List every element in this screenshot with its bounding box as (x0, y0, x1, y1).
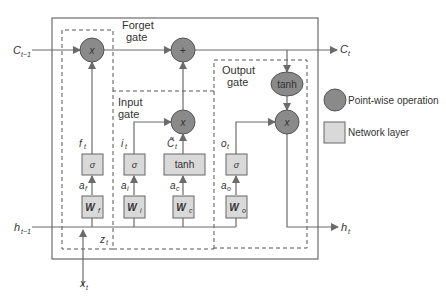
svg-text:h: h (341, 221, 347, 233)
svg-text:i: i (121, 138, 124, 149)
svg-text:t: t (227, 143, 230, 150)
h-prev-label: ht−1 (14, 221, 31, 235)
it-label: it (121, 138, 128, 150)
input-gate-label-2: gate (118, 108, 139, 120)
ctilde-label: C̃t (167, 137, 178, 150)
svg-text:C: C (13, 44, 21, 56)
it-line (134, 122, 171, 154)
output-gate-label-2: gate (227, 76, 248, 88)
tanh-candidate-layer: tanh (164, 154, 205, 175)
h-out-line (287, 134, 338, 227)
forget-gate-label: Forget (122, 19, 154, 31)
sigma-output-layer: σ (226, 154, 247, 175)
svg-text:t: t (125, 143, 128, 150)
output-multiply-op: x (275, 110, 299, 134)
svg-text:h: h (14, 221, 20, 233)
ot-label: ot (221, 138, 230, 150)
ft-label: ft (79, 138, 87, 150)
svg-text:x: x (180, 117, 187, 128)
svg-text:x: x (79, 277, 86, 289)
svg-text:tanh: tanh (277, 79, 296, 90)
forget-multiply-op: x (80, 38, 104, 62)
svg-text:z: z (99, 234, 105, 245)
svg-text:+: + (180, 45, 186, 56)
input-multiply-op: x (171, 110, 195, 134)
svg-text:W: W (229, 202, 240, 213)
ht-label: ht (341, 221, 351, 235)
svg-text:t: t (86, 284, 89, 291)
svg-text:x: x (89, 45, 96, 56)
svg-text:tanh: tanh (175, 159, 194, 170)
svg-text:i: i (127, 185, 129, 192)
svg-text:Point-wise operation: Point-wise operation (348, 95, 439, 106)
svg-text:W: W (85, 202, 96, 213)
sigma-forget-layer: σ (82, 154, 103, 175)
zt-label: zt (99, 234, 109, 246)
svg-text:c: c (189, 207, 193, 214)
ot-line (236, 122, 275, 154)
svg-text:o: o (242, 207, 246, 214)
svg-text:C: C (340, 43, 348, 55)
svg-text:f: f (79, 138, 83, 149)
svg-text:c: c (176, 185, 180, 192)
xt-label: xt (79, 277, 89, 291)
c-prev-label: Ct−1 (13, 44, 31, 58)
svg-text:W: W (127, 202, 138, 213)
output-tanh-op: tanh (271, 72, 303, 96)
w-forget-layer: W f (82, 196, 103, 218)
svg-text:C̃: C̃ (167, 137, 175, 149)
svg-text:σ: σ (234, 160, 240, 170)
input-gate-label: Input (118, 96, 142, 108)
svg-text:t: t (84, 143, 87, 150)
svg-text:t: t (106, 239, 109, 246)
af-label: af (79, 180, 88, 192)
svg-text:σ: σ (90, 160, 96, 170)
svg-text:σ: σ (132, 160, 138, 170)
ai-label: ai (121, 180, 129, 192)
svg-text:f: f (85, 185, 88, 192)
ao-label: ao (221, 180, 231, 192)
ct-label: Ct (340, 43, 351, 57)
legend-pointwise: Point-wise operation (324, 89, 439, 111)
svg-text:x: x (284, 117, 291, 128)
sigma-input-layer: σ (124, 154, 145, 175)
svg-text:o: o (227, 185, 231, 192)
output-gate-label: Output (222, 64, 255, 76)
svg-text:t: t (348, 50, 351, 57)
lstm-diagram: Forget gate Input gate Output gate x + x (0, 0, 446, 308)
cell-add-op: + (171, 38, 195, 62)
w-input-layer: W i (124, 196, 145, 218)
w-output-layer: W o (226, 196, 247, 218)
svg-text:t: t (348, 228, 351, 235)
svg-text:t: t (175, 143, 178, 150)
legend-network-layer: Network layer (324, 122, 410, 143)
forget-gate-label-2: gate (126, 31, 147, 43)
svg-text:t−1: t−1 (21, 51, 31, 58)
svg-text:Network layer: Network layer (348, 127, 410, 138)
svg-text:t−1: t−1 (21, 228, 31, 235)
w-candidate-layer: W c (173, 196, 194, 218)
ac-label: ac (170, 180, 180, 192)
svg-text:W: W (176, 202, 187, 213)
